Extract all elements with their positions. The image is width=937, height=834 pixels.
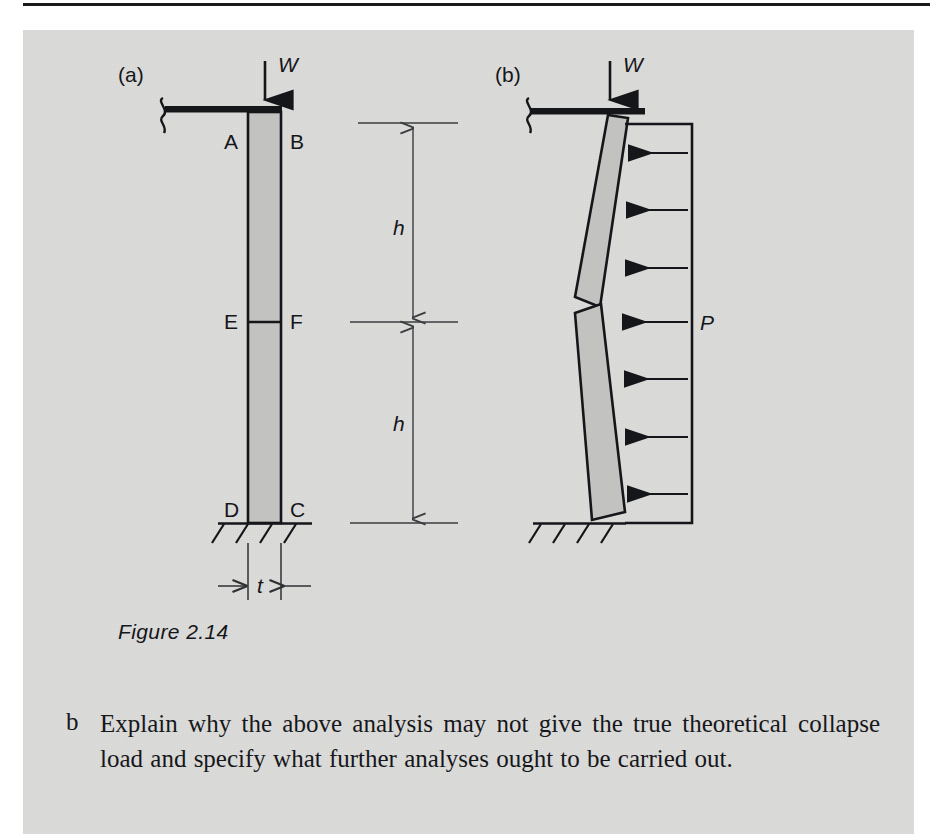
panel-a-label-F: F [290,310,303,333]
panel-b-pressure-label-P: P [700,311,714,334]
panel-a-label: (a) [118,63,144,86]
panel-b-lower-wall-segment [575,304,625,520]
panel-b-pressure-block: P [624,124,714,523]
panel-a-break-squiggle [161,98,165,133]
panel-b-load-label-W: W [623,53,645,76]
panel-b-label: (b) [495,63,521,86]
panel-a-label-D: D [224,498,239,521]
panel-a-wall-column [248,112,281,523]
panel-a-group: (a) W A B E F D C [118,53,458,600]
panel-a-height-label-h-upper: h [393,216,405,239]
panel-a-thickness-label-t: t [257,574,264,597]
panel-a-label-A: A [224,130,238,153]
panel-a-base-support [212,524,312,544]
figure-caption: Figure 2.14 [118,620,229,644]
panel-b-upper-wall-segment [575,115,628,307]
panel-b-pressure-outline [625,124,692,523]
question-marker: b [66,708,79,736]
page-root: (a) W A B E F D C [0,0,937,834]
panel-b-group: (b) W [495,53,714,543]
panel-a-label-B: B [290,130,304,153]
panel-a-load-label-W: W [278,53,300,76]
question-text: Explain why the above analysis may not g… [100,706,880,776]
panel-b-break-squiggle [527,98,531,133]
panel-a-label-C: C [290,498,305,521]
panel-a-height-label-h-lower: h [393,412,405,435]
panel-a-thickness-dimension: t [218,543,311,600]
panel-a-label-E: E [224,310,238,333]
panel-b-base-support [529,524,626,544]
panel-b-top-slab [531,108,645,115]
panel-a-height-dimension-chain: h h [350,123,458,523]
